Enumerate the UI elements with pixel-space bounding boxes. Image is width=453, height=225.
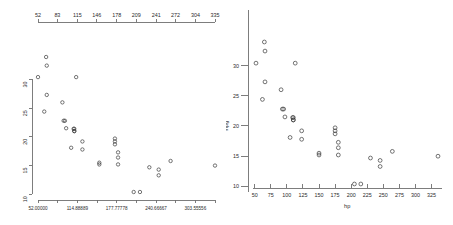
data-point (336, 153, 340, 157)
scatter-plot-left: 528311514617820924127230433552.00000114.… (0, 0, 226, 225)
bottom-axis-tick-label: 114.88889 (67, 206, 89, 211)
y-axis-title: mpg (226, 121, 229, 132)
top-axis-tick-label: 272 (171, 12, 180, 18)
data-point (116, 163, 119, 166)
bottom-axis-tick-label: 52.00000 (28, 206, 48, 211)
data-point (288, 136, 292, 140)
plot-panel-left: 528311514617820924127230433552.00000114.… (0, 0, 226, 225)
bottom-axis-tick-label: 303.55556 (184, 206, 206, 211)
bottom-axis-tick-label: 240.66667 (145, 206, 167, 211)
data-point (300, 137, 304, 141)
data-point (157, 174, 160, 177)
top-axis-tick-label: 146 (92, 12, 101, 18)
figure-canvas: 528311514617820924127230433552.00000114.… (0, 0, 453, 225)
data-point (132, 190, 135, 193)
top-axis-tick-label: 178 (112, 12, 121, 18)
data-point (378, 159, 382, 163)
data-point (336, 146, 340, 150)
top-axis-tick-label: 83 (54, 12, 60, 18)
data-point (336, 140, 340, 144)
x-axis-tick-label: 150 (315, 192, 324, 198)
data-point (369, 156, 373, 160)
x-axis-tick-label: 200 (347, 192, 356, 198)
y-axis-tick-label: 15 (233, 153, 239, 159)
x-axis-tick-label: 175 (331, 192, 340, 198)
y-axis-tick-label: 20 (233, 123, 239, 129)
data-point (353, 182, 357, 186)
data-point (262, 40, 266, 44)
data-point (45, 93, 48, 96)
data-point (390, 149, 394, 153)
data-point (157, 168, 160, 171)
y-axis-tick-label: 30 (233, 63, 239, 69)
data-point (378, 165, 382, 169)
data-point (36, 75, 39, 78)
y-axis-tick-label: 10 (233, 183, 239, 189)
data-point (283, 115, 287, 119)
data-point (293, 61, 297, 65)
data-point (43, 110, 46, 113)
x-axis-tick-label: 75 (268, 192, 274, 198)
data-point (359, 182, 363, 186)
data-point (61, 101, 64, 104)
y-axis-tick-label: 10 (22, 196, 28, 202)
x-axis-tick-label: 275 (395, 192, 404, 198)
scatter-plot-right: 5075100125150175200225250275300325hp1015… (226, 0, 453, 225)
data-point (213, 164, 216, 167)
top-axis-tick-label: 241 (152, 12, 161, 18)
data-point (116, 151, 119, 154)
data-point (81, 148, 84, 151)
data-point (138, 190, 141, 193)
x-axis-tick-label: 125 (298, 192, 307, 198)
y-axis-tick-label: 30 (22, 81, 28, 87)
top-axis-tick-label: 209 (132, 12, 141, 18)
data-point (45, 64, 48, 67)
data-point (44, 55, 47, 58)
top-axis-tick-label: 52 (35, 12, 41, 18)
top-axis-tick-label: 304 (191, 12, 200, 18)
data-point (300, 129, 304, 133)
x-axis-tick-label: 100 (282, 192, 291, 198)
data-point (169, 159, 172, 162)
data-point (261, 98, 265, 102)
y-axis-tick-label: 15 (22, 168, 28, 174)
x-axis-tick-label: 50 (252, 192, 258, 198)
x-axis-tick-label: 300 (411, 192, 420, 198)
x-axis-tick-label: 250 (379, 192, 388, 198)
top-axis-tick-label: 115 (73, 12, 82, 18)
y-axis-tick-label: 25 (233, 93, 239, 99)
bottom-axis-tick-label: 177.77778 (106, 206, 128, 211)
data-point (81, 140, 84, 143)
data-point (74, 75, 77, 78)
data-point (69, 146, 72, 149)
x-axis-tick-label: 325 (427, 192, 436, 198)
data-point (279, 88, 283, 92)
data-point (436, 154, 440, 158)
data-point (64, 127, 67, 130)
y-axis-tick-label: 20 (22, 139, 28, 145)
data-point (116, 156, 119, 159)
data-point (148, 166, 151, 169)
data-point (254, 61, 258, 65)
x-axis-title: hp (344, 203, 350, 209)
x-axis-tick-label: 225 (363, 192, 372, 198)
plot-panel-right: 5075100125150175200225250275300325hp1015… (226, 0, 453, 225)
data-point (263, 49, 267, 53)
data-point (263, 80, 267, 84)
y-axis-tick-label: 25 (22, 110, 28, 116)
top-axis-tick-label: 335 (211, 12, 220, 18)
